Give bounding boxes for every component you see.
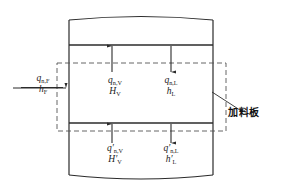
arrows-above-plate <box>112 46 171 72</box>
vapor-label-above-plate: qn,V HV <box>86 76 144 97</box>
liquid-below-flow: q′n,L <box>142 144 200 154</box>
feed-plate-annotation: 加料板 <box>228 108 260 119</box>
vapor-below-stack: q′n,V H′V <box>86 144 144 165</box>
vapor-below-flow: q′n,V <box>86 144 144 154</box>
liquid-above-flow: qn,L <box>142 76 200 86</box>
liquid-below-enthalpy: h′L <box>142 155 200 165</box>
liquid-above-enthalpy: hL <box>142 87 200 97</box>
vapor-above-enthalpy: HV <box>86 87 144 97</box>
vapor-above-stack: qn,V HV <box>86 76 144 97</box>
arrows-below-plate <box>112 124 171 143</box>
feed-flow-symbol: qn,F <box>18 74 68 84</box>
control-volume-boundary <box>57 63 226 131</box>
feed-stream-label: qn,F hF <box>18 74 68 95</box>
liquid-above-stack: qn,L hL <box>142 76 200 97</box>
vapor-below-enthalpy: H′V <box>86 155 144 165</box>
column-top-curve <box>69 17 213 21</box>
liquid-below-stack: q′n,L h′L <box>142 144 200 165</box>
feed-fraction: qn,F hF <box>18 74 68 95</box>
column-bottom-curve <box>69 175 213 179</box>
control-volume-dashed-rect <box>57 63 226 131</box>
liquid-label-above-plate: qn,L hL <box>142 76 200 97</box>
vapor-above-flow: qn,V <box>86 76 144 86</box>
vapor-label-below-plate: q′n,V H′V <box>86 144 144 165</box>
figure-canvas: qn,F hF qn,V HV qn,L hL q′n,V H′V q′n,L … <box>0 0 286 192</box>
liquid-label-below-plate: q′n,L h′L <box>142 144 200 165</box>
feed-label-divider <box>21 87 63 88</box>
